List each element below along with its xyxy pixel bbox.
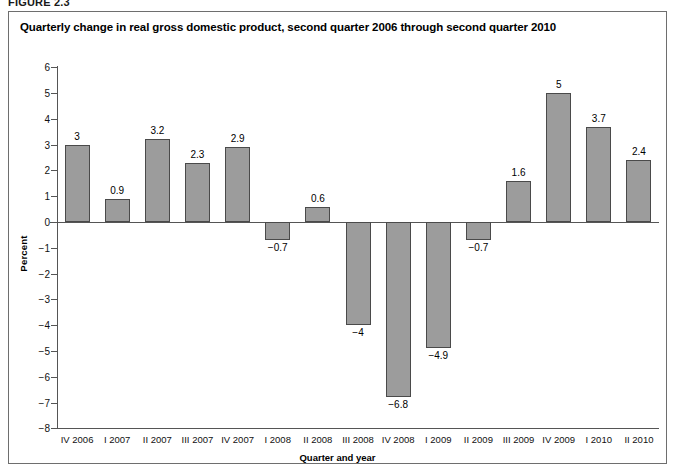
bar (225, 147, 250, 222)
figure-root: FIGURE 2.3 Quarterly change in real gros… (0, 0, 675, 469)
y-tick-label: 0 (22, 217, 50, 228)
bar-value-label: 2.9 (212, 133, 263, 144)
bar (426, 222, 451, 348)
x-tick-label: II 2010 (611, 434, 667, 445)
y-tick-label: −5 (22, 345, 50, 356)
bar (346, 222, 371, 325)
y-tick-label: −6 (22, 371, 50, 382)
y-tick-label: 6 (22, 62, 50, 73)
y-tick-label: 1 (22, 191, 50, 202)
y-tick-mark (51, 428, 57, 429)
bar-value-label: −0.7 (252, 242, 303, 253)
y-tick-label: 5 (22, 88, 50, 99)
bar-value-label: 3.7 (573, 113, 624, 124)
y-tick-label: −7 (22, 397, 50, 408)
y-tick-label: −2 (22, 268, 50, 279)
x-axis-title: Quarter and year (0, 452, 675, 463)
y-tick-label: −1 (22, 242, 50, 253)
bar-value-label: 2.3 (172, 149, 223, 160)
bar (65, 145, 90, 222)
bar (506, 181, 531, 222)
bar (626, 160, 651, 222)
bar-value-label: 0.6 (292, 193, 343, 204)
bar-value-label: −4 (333, 327, 384, 338)
bar-value-label: 3.2 (132, 125, 183, 136)
bar (305, 207, 330, 222)
bar (105, 199, 130, 222)
bar-value-label: 1.6 (493, 167, 544, 178)
y-tick-label: 2 (22, 165, 50, 176)
bar-value-label: 2.4 (613, 146, 664, 157)
chart-title: Quarterly change in real gross domestic … (20, 21, 556, 33)
plot-area: 30.93.22.32.9−0.70.6−4−6.8−4.9−0.71.653.… (57, 67, 661, 428)
bar-value-label: −4.9 (413, 350, 464, 361)
bar-value-label: 5 (533, 79, 584, 90)
bar (546, 93, 571, 222)
x-axis-line (57, 428, 659, 429)
bar (185, 163, 210, 222)
bar (466, 222, 491, 240)
bar-value-label: −6.8 (373, 399, 424, 410)
bar-value-label: 3 (52, 131, 103, 142)
y-tick-label: 3 (22, 139, 50, 150)
bar (586, 127, 611, 222)
y-tick-label: −8 (22, 423, 50, 434)
bar-value-label: −0.7 (453, 242, 504, 253)
bar-value-label: 0.9 (92, 185, 143, 196)
y-tick-label: 4 (22, 113, 50, 124)
bar (386, 222, 411, 397)
y-tick-label: −4 (22, 320, 50, 331)
bar (265, 222, 290, 240)
bar (145, 139, 170, 222)
y-tick-label: −3 (22, 294, 50, 305)
y-tick-labels: 6543210−1−2−3−4−5−6−7−8 (14, 0, 50, 469)
